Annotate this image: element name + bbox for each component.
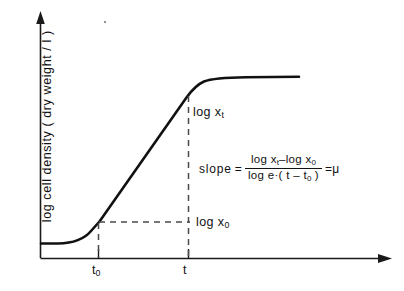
label-log-xt-sub: t bbox=[221, 110, 223, 120]
formula-denom-b-open: ( t – t bbox=[279, 169, 307, 181]
label-log-x0-sub: 0 bbox=[224, 220, 229, 230]
tick-label-t0: t0 bbox=[92, 264, 100, 278]
tick-label-t-main: t bbox=[183, 263, 186, 277]
formula-numer-b-sub: 0 bbox=[312, 158, 316, 167]
formula-result-mu: μ bbox=[332, 163, 339, 175]
slope-formula: slope = log xt–log x0 log e·( t – t0 ) =… bbox=[199, 154, 340, 184]
formula-denominator: log e·( t – t0 ) bbox=[245, 168, 322, 183]
growth-curve-figure: log cell density ( dry weight / l ) log … bbox=[0, 0, 404, 291]
formula-equals-1: = bbox=[235, 163, 242, 175]
figure-canvas bbox=[0, 0, 404, 291]
x-axis-arrow-icon bbox=[378, 254, 392, 263]
formula-lhs: slope bbox=[199, 163, 232, 175]
formula-numerator: log xt–log x0 bbox=[248, 154, 319, 168]
formula-denom-a: log e bbox=[248, 169, 274, 181]
label-log-x0-main: log x bbox=[196, 215, 224, 229]
y-axis-label: log cell density ( dry weight / l ) bbox=[41, 1, 54, 251]
tick-label-t: t bbox=[183, 264, 186, 277]
formula-fraction: log xt–log x0 log e·( t – t0 ) bbox=[245, 154, 322, 184]
label-log-xt-main: log x bbox=[193, 105, 221, 119]
tick-label-t0-sub: 0 bbox=[95, 268, 100, 278]
label-log-x0: log x0 bbox=[196, 216, 229, 230]
formula-denom-b-close: ) bbox=[311, 169, 319, 181]
formula-equals-2: = bbox=[325, 163, 332, 175]
label-log-xt: log xt bbox=[193, 106, 224, 120]
formula-numer-op: – bbox=[279, 153, 286, 165]
scan-speck bbox=[104, 21, 106, 23]
formula-numer-a: log x bbox=[251, 153, 277, 165]
formula-numer-b: log x bbox=[286, 153, 312, 165]
